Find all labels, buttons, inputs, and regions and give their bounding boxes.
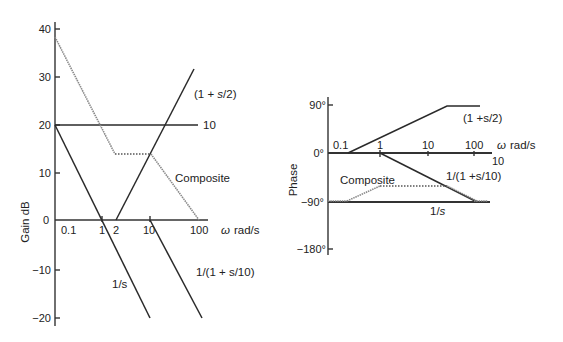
phase-tick-m90: −90° xyxy=(301,196,324,208)
gain-x-ticks: 0.1 1 2 10 100 xyxy=(61,216,208,236)
gain-label-composite: Composite xyxy=(175,172,230,184)
gain-x-omega: ω xyxy=(221,224,230,236)
phase-xtick-10: 10 xyxy=(422,139,434,151)
phase-label-inv-s: 1/s xyxy=(430,205,446,217)
phase-series-composite-c xyxy=(447,186,477,201)
gain-y-label: Gain dB xyxy=(19,201,31,243)
phase-xtick-1: 1 xyxy=(377,139,383,151)
gain-plot: 40 30 20 10 0 −10 −20 Gain dB 0.1 1 2 10… xyxy=(19,22,260,326)
gain-label-pole: 1/(1 + s/10) xyxy=(196,266,255,278)
phase-label-pole: 1/(1 +s/10) xyxy=(446,170,501,182)
phase-plot: 90° 0° −90° −180° Phase 0.1 1 10 100 10 … xyxy=(287,97,536,255)
phase-tick-m180: −180° xyxy=(297,243,326,255)
phase-label-composite: Composite xyxy=(340,174,395,186)
gain-series-inv-s xyxy=(55,125,150,318)
gain-y-ticks: 40 30 20 10 0 −10 −20 xyxy=(32,23,60,324)
gain-tick-40: 40 xyxy=(39,23,51,35)
phase-tick-90: 90° xyxy=(309,99,326,111)
gain-tick-20: 20 xyxy=(39,119,51,131)
phase-tick-0: 0° xyxy=(313,147,324,159)
phase-x-unit: rad/s xyxy=(510,139,536,151)
gain-label-10: 10 xyxy=(203,119,216,131)
gain-tick-30: 30 xyxy=(39,71,51,83)
gain-tick-0: 0 xyxy=(43,214,49,226)
phase-label-zero: (1 +s/2) xyxy=(463,112,502,124)
phase-x-omega: ω xyxy=(497,139,506,151)
gain-tick-m10: −10 xyxy=(32,264,51,276)
bode-plots: 40 30 20 10 0 −10 −20 Gain dB 0.1 1 2 10… xyxy=(0,0,563,342)
gain-xtick-100: 100 xyxy=(190,224,208,236)
gain-xtick-2: 2 xyxy=(113,224,119,236)
phase-xtick-100: 100 xyxy=(465,139,483,151)
gain-label-zero: (1 + s/2) xyxy=(194,88,237,100)
gain-series-composite-a xyxy=(55,37,115,154)
gain-series-composite-b xyxy=(151,154,199,220)
phase-xtick-0.1: 0.1 xyxy=(333,139,348,151)
gain-xtick-0.1: 0.1 xyxy=(61,224,76,236)
phase-series-zero xyxy=(348,106,480,153)
phase-series-composite-b xyxy=(347,186,380,201)
gain-x-unit: rad/s xyxy=(234,224,260,236)
phase-xtick-extra-10: 10 xyxy=(492,155,504,167)
phase-y-label: Phase xyxy=(287,164,299,197)
gain-label-inv-s: 1/s xyxy=(112,278,128,290)
gain-tick-m20: −20 xyxy=(32,312,51,324)
gain-tick-10: 10 xyxy=(39,167,51,179)
